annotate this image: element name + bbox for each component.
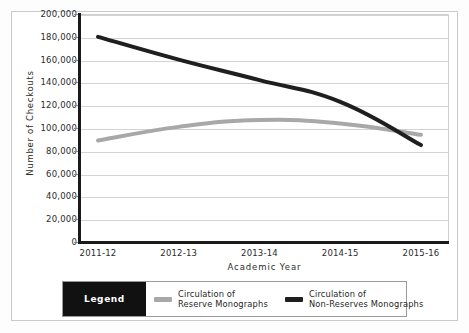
y-axis-tick-label: 100,000 xyxy=(24,123,77,133)
chart-legend: Legend Circulation of Reserve Monographs… xyxy=(62,281,407,317)
y-axis-tickmark xyxy=(74,37,78,38)
legend-entry-label: Circulation of Non-Reserves Monographs xyxy=(309,289,423,310)
y-axis-tickmark xyxy=(74,151,78,152)
x-axis-tick-label: 2014-15 xyxy=(322,248,359,258)
legend-title-box: Legend xyxy=(63,282,146,316)
y-axis-tickmark xyxy=(74,14,78,15)
legend-entries: Circulation of Reserve MonographsCircula… xyxy=(146,282,425,316)
y-axis-tickmark xyxy=(74,105,78,106)
x-axis-title: Academic Year xyxy=(80,262,449,272)
series-line xyxy=(98,120,421,141)
y-axis-tick-label: 20,000 xyxy=(24,214,77,224)
x-axis-tick-label: 2015-16 xyxy=(403,248,440,258)
y-axis-tick-labels: 020,00040,00060,00080,000100,000120,0001… xyxy=(24,14,77,242)
y-axis-tickmark xyxy=(74,128,78,129)
legend-entry-label: Circulation of Reserve Monographs xyxy=(178,289,268,310)
series-layer xyxy=(80,14,449,242)
legend-title: Legend xyxy=(84,294,125,304)
figure-canvas: Number of Checkouts 020,00040,00060,0008… xyxy=(0,0,469,333)
y-axis-tickmark xyxy=(74,196,78,197)
y-axis-tick-label: 0 xyxy=(24,237,77,247)
line-chart: Number of Checkouts 020,00040,00060,0008… xyxy=(0,0,469,333)
y-axis-tickmark xyxy=(74,82,78,83)
y-axis-tick-label: 180,000 xyxy=(24,32,77,42)
y-axis-tickmark xyxy=(74,174,78,175)
y-axis-tick-label: 80,000 xyxy=(24,146,77,156)
x-axis-tick-label: 2012-13 xyxy=(160,248,197,258)
y-axis-tickmark xyxy=(74,60,78,61)
legend-swatch-icon xyxy=(285,297,303,302)
legend-entry[interactable]: Circulation of Non-Reserves Monographs xyxy=(285,289,425,310)
y-axis-tickmark xyxy=(74,242,78,243)
y-axis-tickmark xyxy=(74,219,78,220)
y-axis-tick-label: 120,000 xyxy=(24,100,77,110)
y-axis-tick-label: 160,000 xyxy=(24,55,77,65)
legend-entry[interactable]: Circulation of Reserve Monographs xyxy=(154,289,285,310)
legend-swatch-icon xyxy=(154,297,172,302)
y-axis-tick-label: 140,000 xyxy=(24,77,77,87)
y-axis-tick-label: 60,000 xyxy=(24,169,77,179)
x-axis-tick-label: 2011-12 xyxy=(80,248,117,258)
y-axis-tick-label: 200,000 xyxy=(24,9,77,19)
x-axis-tick-label: 2013-14 xyxy=(241,248,278,258)
x-axis-tick-labels: 2011-122012-132013-142014-152015-16 xyxy=(80,248,449,262)
y-axis-tick-label: 40,000 xyxy=(24,191,77,201)
